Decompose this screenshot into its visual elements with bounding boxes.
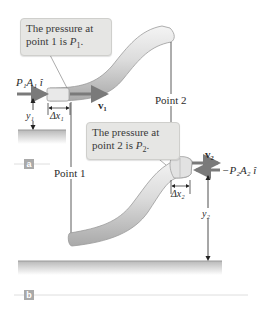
y2-label: y₂ xyxy=(202,208,210,219)
force-label-1: P₁A₁ î xyxy=(16,76,43,88)
callout-1-line1: The pressure at xyxy=(26,22,106,35)
bernoulli-pipe-diagram: The pressure at point 1 is P1. The press… xyxy=(0,0,269,313)
point-2-label: Point 2 xyxy=(155,94,186,106)
callout-2-line1: The pressure at xyxy=(92,126,174,139)
fluid-element-1 xyxy=(47,88,69,101)
callout-1-line2: point 1 is P1. xyxy=(26,35,106,52)
dx1-label: Δx₁ xyxy=(50,110,64,121)
velocity-label-1: v₁ xyxy=(98,99,107,111)
callout-2-line2: point 2 is P2. xyxy=(92,139,174,156)
panel-tag-b: b xyxy=(24,290,34,300)
pressure-callout-2: The pressure at point 2 is P2. xyxy=(86,122,180,160)
ground-a xyxy=(18,130,66,144)
force-label-2: −P₂A₂ î xyxy=(222,164,256,176)
pressure-callout-1: The pressure at point 1 is P1. xyxy=(20,18,112,56)
velocity-label-2: v₂ xyxy=(205,148,214,160)
dx2-label: Δx₂ xyxy=(171,188,185,199)
ground-b xyxy=(18,261,222,275)
y1-label: y₁ xyxy=(26,110,34,121)
panel-tag-a: a xyxy=(24,159,34,169)
point-1-label: Point 1 xyxy=(54,167,85,179)
